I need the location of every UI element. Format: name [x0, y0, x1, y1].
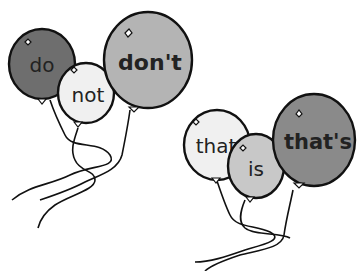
word-do: do — [30, 53, 55, 77]
word-thats: that's — [284, 130, 352, 154]
word-is: is — [248, 157, 264, 181]
balloon-dont: don't — [104, 12, 192, 112]
word-dont: don't — [118, 50, 182, 75]
balloon-thats: that's — [273, 94, 355, 188]
contractions-illustration: do not don't that is that's — [0, 0, 361, 271]
word-not: not — [72, 83, 105, 107]
